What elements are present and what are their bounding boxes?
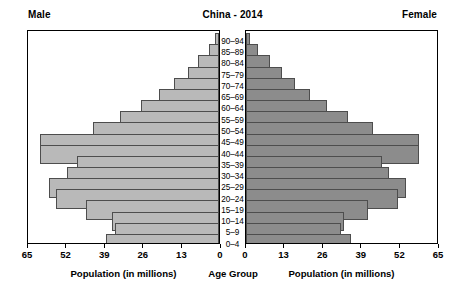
axis-tick bbox=[142, 244, 143, 248]
axis-tick bbox=[104, 244, 105, 248]
axis-tick-label-39: 39 bbox=[356, 249, 367, 260]
bar-female-0-4 bbox=[246, 234, 351, 244]
female-bar-group bbox=[246, 31, 437, 243]
age-group-axis: 90–9485–8980–8475–7970–7465–6960–6455–59… bbox=[220, 30, 245, 244]
axis-tick-label-52: 52 bbox=[394, 249, 405, 260]
axis-tick bbox=[322, 244, 323, 248]
axis-tick bbox=[245, 244, 246, 248]
axis-tick-label-13: 13 bbox=[176, 249, 187, 260]
axis-tick-label-39: 39 bbox=[99, 249, 110, 260]
male-plot-panel bbox=[27, 30, 220, 244]
axis-tick bbox=[27, 244, 28, 248]
chart-title: China - 2014 bbox=[0, 9, 465, 20]
axis-tick bbox=[181, 244, 182, 248]
axis-tick bbox=[438, 244, 439, 248]
bar-row bbox=[246, 232, 437, 244]
axis-tick bbox=[360, 244, 361, 248]
axis-tick-label-65: 65 bbox=[433, 249, 444, 260]
female-plot-panel bbox=[245, 30, 438, 244]
axis-tick-label-52: 52 bbox=[60, 249, 71, 260]
axis-tick-label-26: 26 bbox=[138, 249, 149, 260]
male-axis-title: Population (in millions) bbox=[27, 268, 220, 279]
axis-tick-label-0: 0 bbox=[217, 249, 222, 260]
axis-tick bbox=[65, 244, 66, 248]
male-bar-group bbox=[28, 31, 219, 243]
female-x-axis: 01326395265 bbox=[245, 244, 438, 266]
axis-tick-label-26: 26 bbox=[317, 249, 328, 260]
female-side-label: Female bbox=[402, 9, 437, 20]
axis-tick bbox=[399, 244, 400, 248]
bar-row bbox=[28, 232, 219, 244]
age-group-label-0-4: 0–4 bbox=[220, 233, 245, 257]
axis-tick-label-65: 65 bbox=[22, 249, 33, 260]
bar-male-0-4 bbox=[106, 234, 219, 244]
axis-tick bbox=[220, 244, 221, 248]
population-pyramid-chart: Male China - 2014 Female 90–9485–8980–84… bbox=[0, 0, 465, 297]
axis-tick bbox=[283, 244, 284, 248]
female-axis-title: Population (in millions) bbox=[245, 268, 438, 279]
male-x-axis: 65523926130 bbox=[27, 244, 220, 266]
axis-tick-label-0: 0 bbox=[242, 249, 247, 260]
axis-tick-label-13: 13 bbox=[278, 249, 289, 260]
